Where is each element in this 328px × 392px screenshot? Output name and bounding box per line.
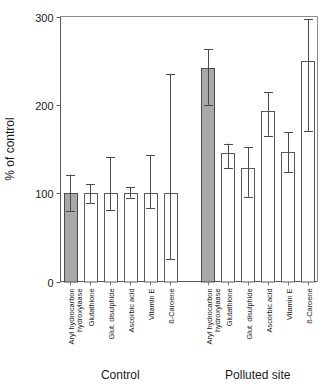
x-category-label: Glut. disulphide bbox=[107, 289, 116, 340]
y-tick-label: 200 bbox=[35, 100, 53, 112]
y-tick-label: 300 bbox=[35, 12, 53, 24]
y-axis-ticks bbox=[57, 18, 61, 283]
x-category-label: Vitamin E bbox=[285, 288, 294, 320]
group-label: Polluted site bbox=[225, 368, 291, 382]
bar bbox=[262, 112, 275, 283]
x-category-label: Aryl hydrocarbonhydroxylaase bbox=[67, 289, 84, 345]
bar bbox=[85, 194, 98, 283]
y-axis-tick-labels: 0100200300 bbox=[35, 12, 53, 289]
y-tick-label: 100 bbox=[35, 188, 53, 200]
bar bbox=[222, 154, 235, 283]
group-label: Control bbox=[101, 368, 140, 382]
y-axis-title: % of control bbox=[3, 117, 17, 180]
bar bbox=[125, 194, 138, 283]
y-tick-label: 0 bbox=[47, 277, 53, 289]
error-bars-layer bbox=[66, 19, 313, 259]
plot-frame bbox=[61, 17, 318, 282]
x-category-label: ß-Caroene bbox=[305, 289, 314, 324]
x-category-label: Vitamin E bbox=[147, 288, 156, 320]
bar-chart: 0100200300 % of control Aryl hydrocarbon… bbox=[0, 0, 328, 392]
x-category-label: Glut. disulphide bbox=[245, 289, 254, 340]
bars-layer bbox=[65, 62, 315, 283]
chart-figure: 0100200300 % of control Aryl hydrocarbon… bbox=[0, 0, 328, 392]
x-category-label: Ascorbic acid bbox=[127, 289, 136, 333]
x-category-label: Aryl hydrocarbonhydroxylaase bbox=[205, 289, 222, 345]
group-labels: ControlPolluted site bbox=[101, 368, 291, 382]
category-labels: Aryl hydrocarbonhydroxylaaseGlutathioneG… bbox=[67, 288, 314, 344]
x-category-label: ß-Caroene bbox=[167, 289, 176, 324]
x-category-label: Glutathione bbox=[87, 289, 96, 327]
x-category-label: Glutathione bbox=[225, 289, 234, 327]
x-category-label: Ascorbic acid bbox=[265, 289, 274, 333]
